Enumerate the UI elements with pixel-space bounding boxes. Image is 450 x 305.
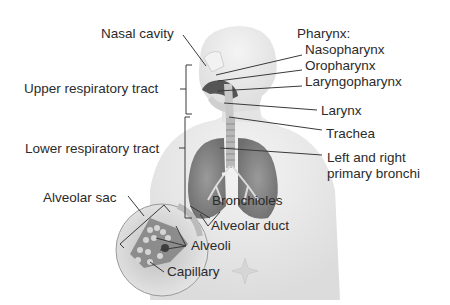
trachea-shape bbox=[226, 118, 235, 168]
label-alveolar-sac: Alveolar sac bbox=[43, 190, 117, 205]
label-laryngopharynx: Laryngopharynx bbox=[305, 74, 402, 89]
label-nasal-cavity: Nasal cavity bbox=[101, 26, 174, 41]
label-capillary: Capillary bbox=[167, 264, 220, 279]
respiratory-system-diagram: Nasal cavity Pharynx: Nasopharynx Oropha… bbox=[0, 0, 450, 305]
label-bronchioles: Bronchioles bbox=[212, 193, 283, 208]
label-nasopharynx: Nasopharynx bbox=[305, 42, 385, 57]
label-larynx: Larynx bbox=[321, 103, 362, 118]
label-bronchi-line1: Left and right bbox=[327, 150, 406, 165]
label-pharynx: Pharynx: bbox=[297, 26, 350, 41]
label-alveolar-duct: Alveolar duct bbox=[211, 218, 289, 233]
label-upper-respiratory-tract: Upper respiratory tract bbox=[24, 81, 158, 96]
label-trachea: Trachea bbox=[326, 126, 375, 141]
label-alveoli: Alveoli bbox=[191, 238, 231, 253]
label-bronchi-line2: primary bronchi bbox=[327, 166, 420, 181]
label-lower-respiratory-tract: Lower respiratory tract bbox=[25, 141, 159, 156]
label-oropharynx: Oropharynx bbox=[305, 58, 376, 73]
